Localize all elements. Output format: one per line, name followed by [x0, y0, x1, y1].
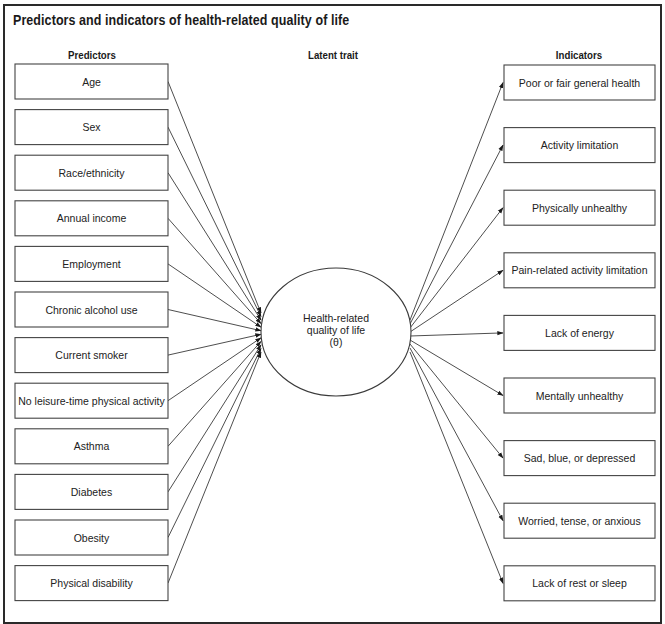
- indicator-label: Lack of energy: [545, 327, 615, 339]
- predictor-label: Current smoker: [55, 349, 128, 361]
- predictor-label: Asthma: [74, 440, 110, 452]
- indicator-worried-tense-or-anxious: Worried, tense, or anxious: [504, 503, 655, 538]
- predictor-arrow: [168, 338, 261, 401]
- predictor-annual-income: Annual income: [15, 201, 168, 236]
- predictor-arrow: [168, 218, 261, 323]
- indicator-lack-of-energy: Lack of energy: [504, 315, 655, 350]
- indicator-label: Poor or fair general health: [519, 77, 641, 89]
- indicator-label: Pain-related activity limitation: [512, 264, 648, 276]
- predictor-chronic-alcohol-use: Chronic alcohol use: [15, 292, 168, 327]
- predictor-arrow: [168, 264, 261, 327]
- predictor-arrow: [168, 352, 261, 583]
- indicator-arrow: [410, 270, 503, 332]
- predictor-employment: Employment: [15, 246, 168, 281]
- predictor-no-leisure-time-physical-activity: No leisure-time physical activity: [15, 383, 168, 418]
- predictor-arrow: [168, 310, 261, 331]
- predictor-diabetes: Diabetes: [15, 474, 168, 509]
- predictor-label: Annual income: [57, 212, 127, 224]
- predictor-label: Physical disability: [50, 577, 133, 589]
- predictor-label: Race/ethnicity: [59, 167, 126, 179]
- predictor-label: Chronic alcohol use: [45, 304, 137, 316]
- indicator-physically-unhealthy: Physically unhealthy: [504, 190, 655, 225]
- predictor-label: Obesity: [74, 532, 110, 544]
- predictor-arrow: [168, 82, 261, 314]
- predictor-age: Age: [15, 64, 168, 99]
- predictor-label: Sex: [82, 121, 101, 133]
- indicator-sad-blue-or-depressed: Sad, blue, or depressed: [504, 441, 655, 476]
- indicator-activity-limitation: Activity limitation: [504, 128, 655, 163]
- indicator-mentally-unhealthy: Mentally unhealthy: [504, 378, 655, 413]
- predictor-asthma: Asthma: [15, 429, 168, 464]
- indicator-label: Lack of rest or sleep: [532, 577, 627, 589]
- indicator-label: Activity limitation: [541, 139, 619, 151]
- predictor-race-ethnicity: Race/ethnicity: [15, 155, 168, 190]
- indicator-arrow: [410, 348, 503, 521]
- latent-trait-label-line-2: quality of life: [307, 324, 366, 336]
- predictor-current-smoker: Current smoker: [15, 338, 168, 373]
- indicator-arrow: [410, 145, 503, 324]
- predictor-arrow: [168, 348, 261, 537]
- indicator-lack-of-rest-or-sleep: Lack of rest or sleep: [504, 566, 655, 601]
- indicator-arrow: [410, 333, 503, 336]
- indicator-label: Sad, blue, or depressed: [524, 452, 636, 464]
- indicator-arrow: [410, 83, 503, 321]
- predictor-obesity: Obesity: [15, 520, 168, 555]
- indicator-label: Worried, tense, or anxious: [518, 515, 640, 527]
- indicator-poor-or-fair-general-health: Poor or fair general health: [504, 65, 655, 100]
- predictor-arrow: [168, 345, 261, 492]
- indicator-arrow: [410, 344, 503, 458]
- predictor-arrow: [168, 334, 261, 355]
- latent-trait-label-line-1: Health-related: [303, 312, 369, 324]
- indicator-arrow: [410, 208, 503, 328]
- predictor-label: Diabetes: [71, 486, 112, 498]
- predictor-arrow: [168, 341, 261, 446]
- predictor-label: No leisure-time physical activity: [18, 395, 165, 407]
- predictor-arrow: [168, 173, 261, 320]
- predictor-arrow: [168, 127, 261, 316]
- indicator-pain-related-activity-limitation: Pain-related activity limitation: [504, 253, 655, 288]
- indicator-label: Mentally unhealthy: [536, 390, 624, 402]
- predictor-physical-disability: Physical disability: [15, 566, 168, 601]
- predictor-label: Age: [82, 76, 101, 88]
- predictor-label: Employment: [62, 258, 120, 270]
- indicator-label: Physically unhealthy: [532, 202, 628, 214]
- predictor-sex: Sex: [15, 110, 168, 145]
- latent-trait-label-line-3: (θ): [330, 336, 343, 348]
